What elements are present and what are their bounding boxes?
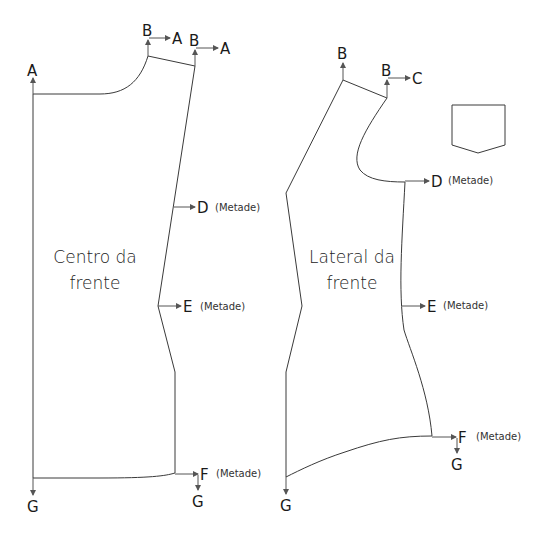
point-label-a: A [172, 30, 183, 48]
point-label-g: G [451, 456, 463, 474]
point-label-f: F [200, 466, 209, 484]
piece-name: Lateral da [309, 247, 395, 267]
point-note: (Metade) [215, 202, 260, 213]
point-label-b: B [337, 45, 347, 63]
point-note: (Metade) [443, 300, 488, 311]
centro-da-frente-outline [33, 56, 195, 478]
piece-name: frente [327, 273, 378, 293]
piece-centro-da-frente: A B A B A D (Metade) E (Metade) F (Metad… [27, 22, 261, 516]
point-label-c: C [412, 70, 422, 88]
point-label-a: A [220, 40, 231, 58]
point-label-g: G [280, 497, 292, 515]
piece-pocket [452, 105, 505, 153]
point-label-e: E [183, 298, 192, 316]
piece-name: Centro da [53, 247, 136, 267]
point-note: (Metade) [476, 431, 521, 442]
pattern-diagram: A B A B A D (Metade) E (Metade) F (Metad… [0, 0, 547, 542]
point-label-d: D [431, 173, 443, 191]
point-label-a: A [27, 62, 38, 80]
point-note: (Metade) [200, 301, 245, 312]
piece-name: frente [70, 273, 121, 293]
point-label-b: B [381, 62, 391, 80]
point-label-e: E [427, 298, 436, 316]
point-label-g: G [192, 493, 204, 511]
point-label-g: G [27, 498, 39, 516]
point-label-b: B [142, 22, 152, 40]
point-note: (Metade) [216, 468, 261, 479]
point-label-d: D [197, 199, 209, 217]
point-note: (Metade) [448, 175, 493, 186]
point-label-b: B [189, 32, 199, 50]
point-label-f: F [458, 429, 467, 447]
pocket-outline [452, 105, 505, 153]
piece-lateral-da-frente: B B C D (Metade) E (Metade) F (Metade) G… [280, 45, 521, 515]
